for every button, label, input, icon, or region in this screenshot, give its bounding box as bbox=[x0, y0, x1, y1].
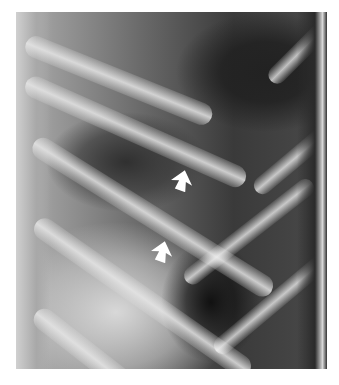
arrow-icon bbox=[151, 241, 173, 263]
arrow-icon bbox=[171, 170, 193, 192]
chest-wall bbox=[297, 12, 327, 369]
